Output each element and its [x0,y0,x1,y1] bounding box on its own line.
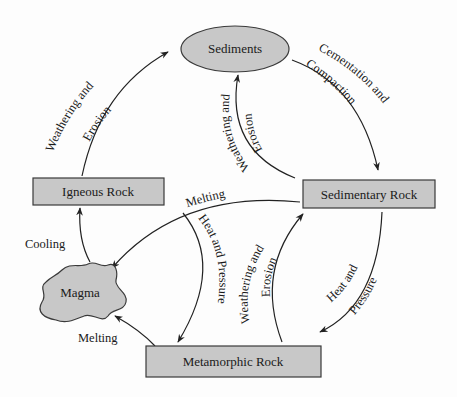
label-metamorphic-to-sedimentary-2: Erosion [259,254,280,297]
node-sediments: Sediments [181,26,289,72]
sediments-label: Sediments [208,41,262,56]
metamorphic-rock-label: Metamorphic Rock [183,354,284,369]
arrow-magma-to-igneous [80,208,90,262]
rock-cycle-diagram: Sediments Igneous Rock Sedimentary Rock … [0,0,457,397]
arrow-sedimentary-to-metamorphic-inner [178,213,203,342]
node-sedimentary-rock: Sedimentary Rock [303,180,435,208]
label-sedimentary-to-sediments-2: Erosion [241,112,266,155]
label-sedimentary-to-magma: Melting [184,186,227,210]
label-metamorphic-to-magma: Melting [78,331,118,345]
arrow-metamorphic-to-sedimentary [272,214,303,342]
node-metamorphic-rock: Metamorphic Rock [146,346,321,377]
label-magma-to-igneous: Cooling [25,237,66,251]
label-igneous-to-sediments-2: Erosion [80,102,115,143]
arrow-metamorphic-to-magma [115,316,155,346]
sedimentary-rock-label: Sedimentary Rock [321,187,418,202]
magma-label: Magma [60,285,100,300]
node-igneous-rock: Igneous Rock [33,178,164,205]
node-magma: Magma [40,263,126,322]
label-sedimentary-to-metamorphic-inner: Heat and Pressure [196,211,231,305]
igneous-rock-label: Igneous Rock [62,184,134,199]
label-igneous-to-sediments-1: Weathering and [43,78,97,153]
